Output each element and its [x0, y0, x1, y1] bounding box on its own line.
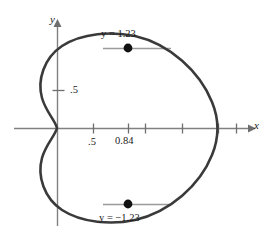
annotation-top-tangent: y = 1.23 [101, 29, 136, 40]
point-bottom-tangency [124, 200, 133, 209]
point-top-tangency [124, 44, 133, 53]
cardioid-figure: y x .5 .5 0.84 y = 1.23 y = −1.23 [0, 0, 268, 242]
annotation-bottom-tangent: y = −1.23 [99, 213, 140, 224]
x-axis-label: x [254, 120, 259, 131]
y-axis-label: y [50, 14, 55, 25]
x-tick-label-084: 0.84 [115, 136, 133, 147]
y-tick-label-half: .5 [70, 85, 78, 96]
x-tick-label-half: .5 [88, 137, 96, 148]
